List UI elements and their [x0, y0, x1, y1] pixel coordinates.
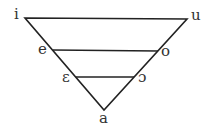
vowel-open-o: ɔ: [138, 70, 146, 85]
vowel-o: o: [161, 44, 170, 59]
vowel-open-e: ɛ: [62, 70, 70, 85]
vowel-u: u: [191, 8, 201, 23]
mid-high-line: [53, 50, 158, 51]
triangle-outline: [25, 18, 187, 110]
vowel-e: e: [38, 42, 47, 57]
vowel-a: a: [99, 111, 108, 126]
vowel-i: i: [14, 7, 19, 22]
